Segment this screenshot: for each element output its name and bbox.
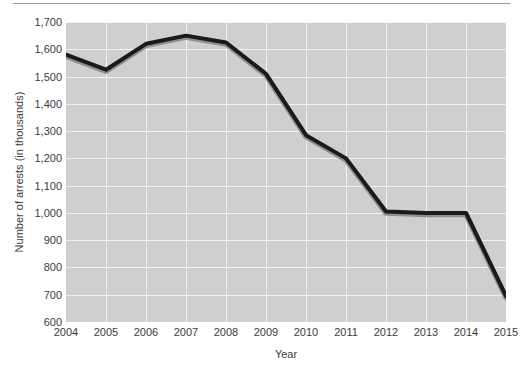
y-axis-tick-label: 1,700 — [24, 17, 62, 28]
y-axis-tick-label: 1,100 — [24, 181, 62, 192]
series-line-shadow — [66, 37, 506, 297]
series-line-path — [66, 36, 506, 296]
top-divider-rule — [13, 3, 510, 4]
y-axis-tick-label: 1,600 — [24, 44, 62, 55]
x-axis-tick-label: 2015 — [481, 326, 521, 339]
y-axis-tick-label: 900 — [24, 235, 62, 246]
y-axis-tick-labels: 1,7001,6001,5001,4001,3001,2001,1001,000… — [24, 22, 62, 322]
x-axis-tick-labels: 2004200520062007200820092010201120122013… — [66, 326, 506, 340]
y-axis-tick-label: 800 — [24, 262, 62, 273]
y-axis-tick-label: 1,200 — [24, 153, 62, 164]
y-axis-tick-label: 1,300 — [24, 126, 62, 137]
y-axis-tick-label: 700 — [24, 290, 62, 301]
series-line-number-of-arrests — [66, 22, 506, 322]
y-axis-tick-label: 1,400 — [24, 99, 62, 110]
y-axis-tick-label: 1,000 — [24, 208, 62, 219]
y-axis-tick-label: 1,500 — [24, 72, 62, 83]
x-axis-title: Year — [66, 348, 506, 361]
chart-figure: Number of arrests (in thousands) 1,7001,… — [0, 0, 521, 372]
plot-area — [66, 22, 506, 322]
